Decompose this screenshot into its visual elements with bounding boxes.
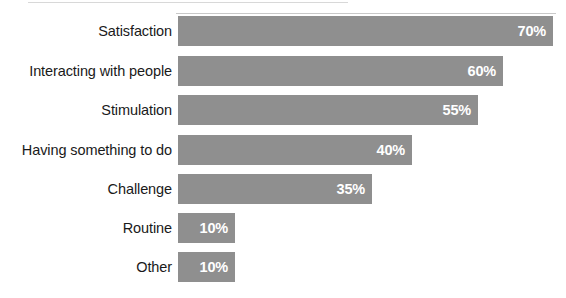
bar-row: Stimulation55% — [0, 95, 566, 125]
plot-area: Satisfaction70%Interacting with people60… — [0, 0, 566, 298]
bar: 55% — [178, 95, 478, 125]
bar-row: Having something to do40% — [0, 135, 566, 165]
bar-value-label: 55% — [443, 95, 471, 125]
bar-row: Routine10% — [0, 213, 566, 243]
bar-row: Interacting with people60% — [0, 56, 566, 86]
bar-value-label: 60% — [468, 56, 496, 86]
bar-value-label: 35% — [337, 174, 365, 204]
bar-value-label: 10% — [200, 213, 228, 243]
bar-value-label: 70% — [518, 16, 546, 46]
bar-chart: Satisfaction70%Interacting with people60… — [0, 0, 566, 298]
category-label: Interacting with people — [0, 56, 172, 86]
category-label: Stimulation — [0, 95, 172, 125]
category-label: Other — [0, 252, 172, 282]
bar-row: Other10% — [0, 252, 566, 282]
bar: 40% — [178, 135, 412, 165]
category-label: Challenge — [0, 174, 172, 204]
bar: 35% — [178, 174, 372, 204]
bar-value-label: 40% — [377, 135, 405, 165]
category-label: Having something to do — [0, 135, 172, 165]
bar-row: Challenge35% — [0, 174, 566, 204]
bar: 10% — [178, 252, 235, 282]
bar-row: Satisfaction70% — [0, 16, 566, 46]
bar: 70% — [178, 16, 553, 46]
category-label: Routine — [0, 213, 172, 243]
bar-value-label: 10% — [200, 252, 228, 282]
bar: 60% — [178, 56, 503, 86]
category-label: Satisfaction — [0, 16, 172, 46]
bar: 10% — [178, 213, 235, 243]
